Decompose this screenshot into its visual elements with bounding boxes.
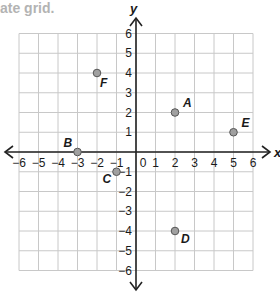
point-c-label: C — [103, 172, 112, 186]
y-tick-label: 5 — [125, 46, 132, 60]
y-tick-label: 2 — [125, 106, 132, 120]
y-tick-label: −5 — [118, 244, 132, 258]
x-tick-label: 4 — [211, 156, 218, 170]
y-tick-label: −4 — [118, 224, 132, 238]
y-tick-label: 1 — [125, 125, 132, 139]
x-axis-label: x — [273, 145, 280, 160]
x-tick-label: −5 — [32, 156, 46, 170]
y-tick-label: −2 — [118, 185, 132, 199]
y-tick-label: 6 — [125, 27, 132, 41]
y-tick-label: 4 — [125, 66, 132, 80]
coordinate-grid: xy −6−5−4−3−2−10123456−6−5−4−3−2−1123456… — [0, 0, 280, 297]
point-c-marker — [113, 168, 121, 176]
x-tick-label: 6 — [250, 156, 257, 170]
point-e-label: E — [242, 116, 251, 130]
point-d-label: D — [181, 232, 190, 246]
x-tick-label: 2 — [172, 156, 179, 170]
x-tick-label: 1 — [152, 156, 159, 170]
point-b-label: B — [64, 136, 73, 150]
x-tick-label: 3 — [191, 156, 198, 170]
x-tick-label: −2 — [90, 156, 104, 170]
point-e-marker — [230, 128, 238, 136]
point-d-marker — [171, 227, 179, 235]
point-a-label: A — [182, 96, 192, 110]
x-tick-label: 0 — [140, 156, 147, 170]
y-tick-label: −3 — [118, 204, 132, 218]
y-tick-label: 3 — [125, 86, 132, 100]
x-tick-label: −6 — [12, 156, 26, 170]
point-f-label: F — [100, 76, 108, 90]
point-b-marker — [74, 148, 82, 156]
x-tick-label: −4 — [51, 156, 65, 170]
x-tick-label: 5 — [230, 156, 237, 170]
y-tick-label: −6 — [118, 264, 132, 278]
axes: xy — [5, 1, 280, 290]
y-axis-label: y — [129, 1, 138, 16]
point-a-marker — [171, 109, 179, 117]
x-tick-label: −3 — [71, 156, 85, 170]
